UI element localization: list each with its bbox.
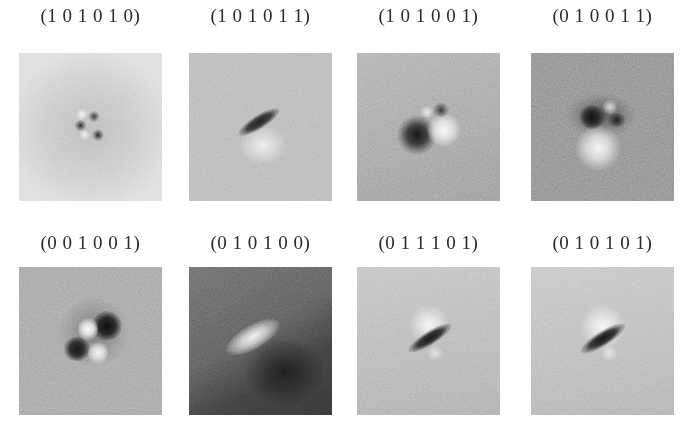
panel-image	[357, 53, 500, 201]
panel-image	[19, 267, 162, 415]
panel-label: (0 1 0 1 0 1)	[531, 232, 674, 254]
panel-image	[189, 53, 332, 201]
panel-label: (0 1 1 1 0 1)	[357, 232, 500, 254]
panel-image	[531, 53, 674, 201]
panel-label: (1 0 1 0 0 1)	[357, 5, 500, 27]
panel-label: (1 0 1 0 1 1)	[189, 5, 332, 27]
panel-image	[189, 267, 332, 415]
panel-label: (0 1 0 1 0 0)	[189, 232, 332, 254]
panel-label: (0 1 0 0 1 1)	[531, 5, 674, 27]
panel-image	[357, 267, 500, 415]
panel-label: (0 0 1 0 0 1)	[19, 232, 162, 254]
panel-image	[19, 53, 162, 201]
panel-image	[531, 267, 674, 415]
panel-label: (1 0 1 0 1 0)	[19, 5, 162, 27]
